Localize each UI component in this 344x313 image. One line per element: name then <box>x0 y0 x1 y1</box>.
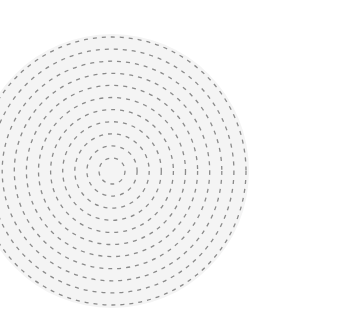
concentric-circles-figure <box>0 0 344 313</box>
